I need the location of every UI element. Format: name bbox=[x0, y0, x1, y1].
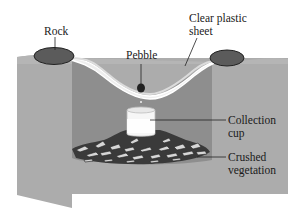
label-sheet-line1: Clear plastic bbox=[189, 12, 247, 24]
collection-cup bbox=[127, 107, 155, 136]
rock-right bbox=[210, 50, 244, 66]
label-pebble: Pebble bbox=[126, 49, 157, 61]
pebble bbox=[137, 84, 145, 93]
label-rock: Rock bbox=[44, 25, 68, 37]
label-veg-line2: vegetation bbox=[228, 164, 276, 176]
label-cup-line1: Collection bbox=[228, 114, 276, 126]
water-drop bbox=[140, 96, 142, 98]
solar-still-diagram: Rock Clear plastic sheet Pebble Collecti… bbox=[0, 0, 301, 208]
label-veg-line1: Crushed bbox=[228, 151, 266, 163]
water-drop bbox=[140, 101, 142, 103]
rock-left bbox=[34, 48, 74, 65]
label-sheet-line2: sheet bbox=[189, 25, 213, 37]
label-cup-line2: cup bbox=[228, 127, 245, 139]
